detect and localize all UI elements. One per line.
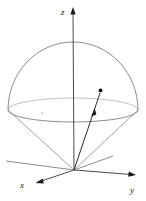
figure-container: z x y — [0, 0, 146, 201]
x-axis-arrowhead — [36, 179, 44, 184]
z-axis — [73, 12, 74, 170]
dome-base-ellipse-back — [8, 98, 138, 110]
dome-base-ellipse-front — [8, 110, 138, 122]
x-axis-label: x — [19, 180, 24, 190]
cone-line-right — [74, 110, 138, 170]
cone-line-left — [8, 110, 74, 170]
direction-vector-arrowhead — [91, 109, 96, 117]
scan-speckle-mark — [41, 112, 43, 114]
y-axis-arrowhead — [128, 172, 136, 177]
helper-line-left — [6, 161, 74, 170]
x-axis — [40, 170, 74, 182]
hemisphere-axes-diagram: z x y — [0, 0, 146, 201]
vector-endpoint-dot — [99, 89, 103, 93]
z-axis-label: z — [60, 7, 65, 17]
helper-line-right — [74, 156, 113, 170]
y-axis-label: y — [129, 185, 134, 195]
z-axis-arrowhead — [70, 7, 75, 15]
direction-vector — [74, 93, 100, 170]
y-axis — [74, 170, 131, 175]
